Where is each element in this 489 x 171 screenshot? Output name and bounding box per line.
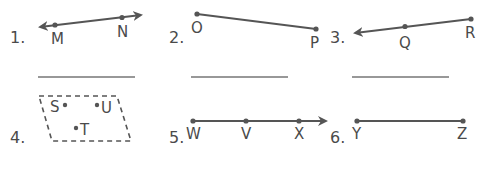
point-label-u: U <box>101 99 112 117</box>
segment-op <box>197 14 316 29</box>
point-r <box>468 16 473 21</box>
problem-number: 5. <box>169 128 184 147</box>
problem-6: 6. Y Z <box>330 118 467 147</box>
point-label-o: O <box>191 19 203 37</box>
point-label-y: Y <box>351 125 362 143</box>
point-label-w: W <box>186 125 201 143</box>
point-y <box>354 118 359 123</box>
point-s <box>63 103 67 107</box>
problem-number: 4. <box>10 128 25 147</box>
problem-1: 1. M N <box>10 15 141 77</box>
point-q <box>402 24 407 29</box>
point-label-m: M <box>51 30 64 48</box>
problem-3: 3. Q R <box>330 16 475 77</box>
problem-4: 4. S U T <box>10 96 131 147</box>
point-label-r: R <box>465 24 475 42</box>
point-p <box>313 26 318 31</box>
point-x <box>296 118 301 123</box>
point-label-z: Z <box>457 125 467 143</box>
problem-number: 3. <box>330 28 345 47</box>
point-o <box>194 11 199 16</box>
problem-number: 6. <box>330 128 345 147</box>
problem-number: 2. <box>169 28 184 47</box>
point-label-n: N <box>117 23 128 41</box>
point-label-x: X <box>294 125 304 143</box>
point-label-t: T <box>79 121 90 139</box>
point-label-p: P <box>310 34 319 52</box>
point-w <box>190 118 195 123</box>
problem-number: 1. <box>10 28 25 47</box>
point-label-q: Q <box>399 34 411 52</box>
problem-2: 2. O P <box>169 11 319 77</box>
point-t <box>74 126 78 130</box>
point-v <box>243 118 248 123</box>
point-label-s: S <box>50 98 60 116</box>
point-label-v: V <box>241 125 252 143</box>
point-z <box>460 118 465 123</box>
geometry-worksheet: 1. M N 2. O P 3. Q R 4. S U T <box>0 0 489 171</box>
point-n <box>119 15 124 20</box>
point-u <box>95 103 99 107</box>
point-m <box>52 22 57 27</box>
ray-rq <box>355 19 471 33</box>
problem-5: 5. W V X <box>169 118 326 147</box>
